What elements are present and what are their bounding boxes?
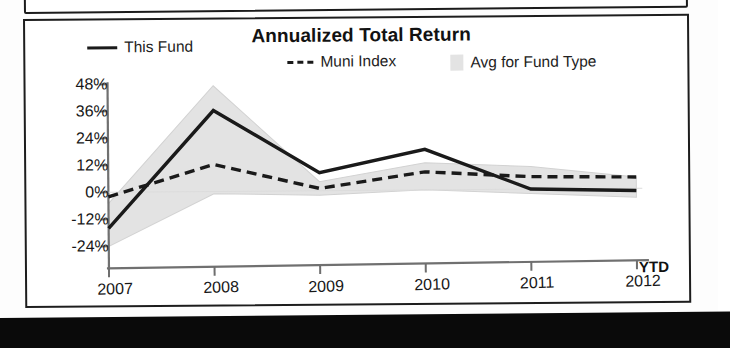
panel-above-fragment bbox=[24, 0, 688, 14]
plot-area: 48%36%24%12%0%-12%-24% 20072008200920102… bbox=[25, 16, 689, 306]
x-tick-label-2008: 2008 bbox=[203, 278, 239, 297]
x-tick-label-2009: 2009 bbox=[308, 277, 344, 296]
x-tick-label-2007: 2007 bbox=[97, 280, 133, 299]
x-axis-ytd-note: YTD bbox=[639, 258, 669, 275]
x-axis-tick-labels: 200720082009201020112012 bbox=[25, 16, 689, 306]
x-tick-label-2011: 2011 bbox=[520, 274, 555, 293]
annualized-total-return-panel: Annualized Total Return This Fund Muni I… bbox=[23, 14, 691, 308]
scan-black-bar-lower bbox=[0, 330, 730, 348]
x-tick-label-2010: 2010 bbox=[414, 275, 450, 294]
